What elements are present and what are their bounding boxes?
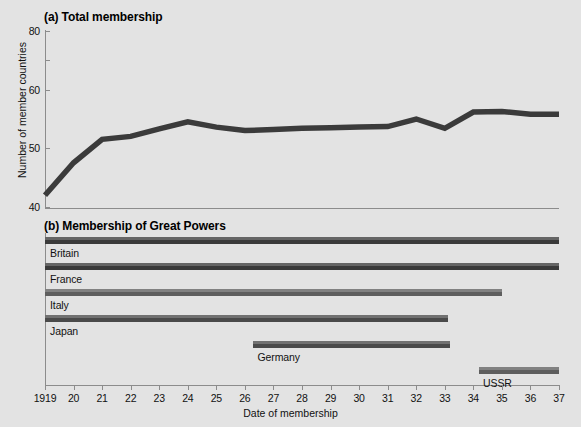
panel-great-powers: (b) Membership of Great Powers BritainFr… [0, 215, 581, 427]
panel-b-title: (b) Membership of Great Powers [44, 219, 226, 233]
xtick-1930 [359, 385, 360, 390]
panel-total-membership: (a) Total membership 80 60 50 40 Number … [0, 0, 581, 215]
xtick-1929 [331, 385, 332, 390]
panel-a-line-series [0, 0, 581, 215]
xtick-label-1937: 37 [541, 392, 577, 404]
xtick-1922 [131, 385, 132, 390]
xtick-1927 [273, 385, 274, 390]
bar-highlight [479, 367, 559, 370]
xtick-1928 [302, 385, 303, 390]
xtick-1931 [388, 385, 389, 390]
xtick-1932 [416, 385, 417, 390]
bar-highlight [45, 289, 502, 292]
bar-label-italy: Italy [50, 299, 69, 311]
xtick-1925 [216, 385, 217, 390]
bar-ussr [479, 367, 559, 374]
xtick-1919 [45, 385, 46, 390]
bar-highlight [253, 341, 450, 344]
bar-germany [253, 341, 450, 348]
xtick-1926 [245, 385, 246, 390]
xtick-1933 [445, 385, 446, 390]
bar-highlight [45, 263, 559, 266]
panel-b-x-axis-label: Date of membership [0, 407, 581, 419]
bar-label-france: France [50, 273, 82, 285]
bar-label-ussr: USSR [483, 377, 512, 389]
xtick-1923 [159, 385, 160, 390]
figure-canvas: (a) Total membership 80 60 50 40 Number … [0, 0, 581, 427]
bar-highlight [45, 237, 559, 240]
bar-italy [45, 289, 502, 296]
bar-britain [45, 237, 559, 244]
panel-b-y-axis-line [45, 233, 46, 385]
bar-france [45, 263, 559, 270]
xtick-1934 [473, 385, 474, 390]
xtick-1935 [502, 385, 503, 390]
bar-highlight [45, 315, 448, 318]
xtick-1924 [188, 385, 189, 390]
xtick-1936 [530, 385, 531, 390]
bar-label-japan: Japan [50, 325, 78, 337]
bar-label-germany: Germany [257, 351, 299, 363]
bar-label-britain: Britain [50, 247, 79, 259]
xtick-1921 [102, 385, 103, 390]
xtick-1937 [559, 385, 560, 390]
bar-japan [45, 315, 448, 322]
xtick-1920 [74, 385, 75, 390]
